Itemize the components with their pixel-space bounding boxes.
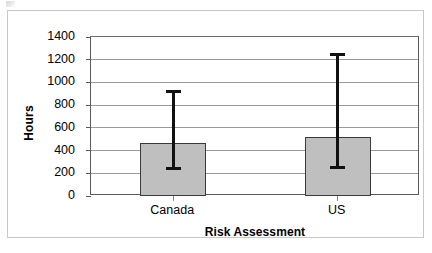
y-tick-mark bbox=[86, 37, 91, 38]
y-tick-label: 1400 bbox=[31, 30, 75, 42]
y-tick-mark bbox=[86, 59, 91, 60]
y-tick-label: 200 bbox=[31, 166, 75, 178]
x-tick-mark bbox=[173, 196, 174, 201]
y-tick-mark bbox=[86, 127, 91, 128]
y-tick-label: 1200 bbox=[31, 53, 75, 65]
error-bar-line-us bbox=[336, 53, 339, 169]
gridline bbox=[91, 82, 418, 83]
gridline bbox=[91, 59, 418, 60]
y-tick-label: 600 bbox=[31, 121, 75, 133]
error-bar-cap-us-upper bbox=[330, 53, 345, 56]
error-bar-line-canada bbox=[172, 90, 175, 170]
y-tick-mark bbox=[86, 196, 91, 197]
scan-artifact bbox=[6, 1, 15, 7]
y-tick-mark bbox=[86, 173, 91, 174]
y-tick-label: 800 bbox=[31, 98, 75, 110]
y-tick-mark bbox=[86, 150, 91, 151]
x-tick-mark bbox=[337, 196, 338, 201]
y-tick-label: 1000 bbox=[31, 75, 75, 87]
y-tick-label: 0 bbox=[31, 189, 75, 201]
y-tick-mark bbox=[86, 82, 91, 83]
error-bar-cap-us-lower bbox=[330, 166, 345, 169]
y-tick-mark bbox=[86, 105, 91, 106]
gridline bbox=[91, 127, 418, 128]
gridline bbox=[91, 105, 418, 106]
chart-figure-frame: Hours Risk Assessment 140012001000800600… bbox=[7, 10, 424, 238]
x-axis-title: Risk Assessment bbox=[90, 225, 420, 241]
plot-area bbox=[90, 36, 419, 195]
x-tick-label-canada: Canada bbox=[112, 203, 232, 217]
y-tick-label: 400 bbox=[31, 144, 75, 156]
error-bar-cap-canada-upper bbox=[166, 90, 181, 93]
error-bar-cap-canada-lower bbox=[166, 167, 181, 170]
x-tick-label-us: US bbox=[277, 203, 397, 217]
